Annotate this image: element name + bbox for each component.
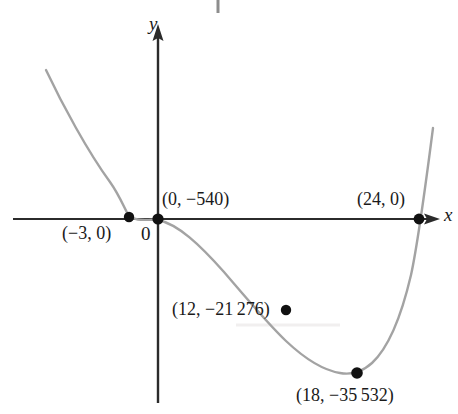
graph-figure: (−3, 0) 0 (0, −540) (24, 0) (12, −21 276… [0,0,458,414]
label-x-intercept-left: (−3, 0) [62,224,111,242]
label-y-intercept: (0, −540) [162,190,229,208]
point-inflection [281,305,291,315]
point-x-intercept-left [124,212,134,222]
point-x-intercept-right [414,214,425,225]
x-axis-label: x [444,205,452,224]
label-minimum-point: (18, −35 532) [296,386,394,404]
point-minimum [351,367,363,379]
polynomial-curve [46,70,433,374]
y-axis-label: y [149,14,157,33]
label-origin: 0 [141,224,151,243]
point-y-intercept [152,213,163,224]
label-inflection-point: (12, −21 276) [172,300,270,318]
label-x-intercept-right: (24, 0) [357,190,405,208]
